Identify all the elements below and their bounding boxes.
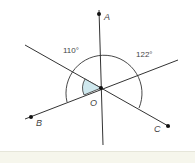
angle-label-122: 122° bbox=[136, 50, 153, 59]
angle-label-110: 110° bbox=[63, 46, 79, 55]
point-o bbox=[99, 86, 103, 90]
point-a bbox=[97, 12, 101, 16]
bottom-strip bbox=[0, 151, 195, 163]
label-o: O bbox=[90, 98, 97, 108]
angle-diagram: A B C O 110° 122° bbox=[0, 0, 195, 151]
point-c bbox=[166, 124, 170, 128]
point-b bbox=[29, 115, 33, 119]
line-oa bbox=[99, 10, 103, 145]
label-c: C bbox=[154, 124, 161, 134]
label-a: A bbox=[103, 12, 110, 22]
shaded-angle bbox=[83, 79, 101, 95]
angle-arc bbox=[66, 55, 142, 108]
label-b: B bbox=[36, 118, 42, 128]
